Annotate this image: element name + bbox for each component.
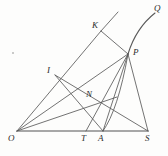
geometry-figure: O T A S I N K P Q [0, 0, 168, 156]
segment-I-A [55, 75, 103, 131]
point-label-A: A [98, 134, 104, 143]
segment-K-P [101, 31, 128, 54]
segment-P-S [128, 54, 148, 131]
segment-I-S [55, 75, 148, 131]
point-label-K: K [92, 21, 98, 30]
point-label-N: N [86, 90, 92, 99]
point-label-P: P [133, 48, 139, 57]
segment-O-N [17, 97, 117, 131]
point-label-T: T [81, 134, 86, 143]
point-label-O: O [8, 134, 15, 143]
point-label-I: I [47, 66, 50, 75]
segment-ray-K-extension [101, 12, 118, 31]
stray-speck-mark [12, 52, 14, 54]
point-label-Q: Q [154, 4, 161, 13]
point-label-S: S [145, 134, 150, 143]
